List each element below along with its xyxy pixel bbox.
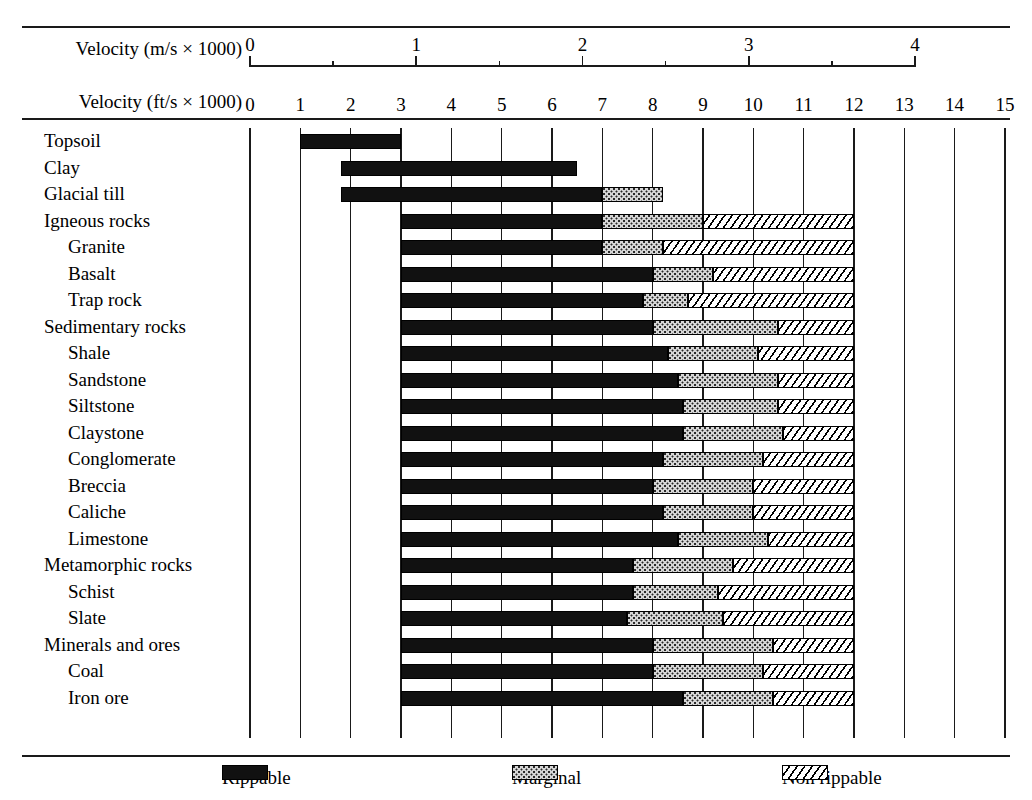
bar-row: Basalt [0,261,1032,288]
velocity-bar [401,532,854,547]
velocity-bar [401,585,854,600]
segment-nonrippable [773,638,854,653]
imperial-tick-label-1: 1 [296,95,306,114]
bar-row: Slate [0,605,1032,632]
segment-marginal [653,479,754,494]
row-label-topsoil: Topsoil [0,128,272,155]
metric-tick-label-4: 4 [910,35,920,54]
imperial-tick-label-4: 4 [447,95,457,114]
row-label-metamorphic-rocks: Metamorphic rocks [0,552,272,579]
metric-tick-label-3: 3 [744,35,754,54]
segment-nonrippable [783,426,853,441]
velocity-bar [401,558,854,573]
segment-rippable [401,479,653,494]
imperial-tick-label-2: 2 [346,95,356,114]
bar-row: Limestone [0,526,1032,553]
metric-axis-caption: Velocity (m/s × 1000) [30,38,242,60]
bar-row: Igneous rocks [0,208,1032,235]
bar-row: Granite [0,234,1032,261]
bar-row: Siltstone [0,393,1032,420]
segment-marginal [678,532,769,547]
bar-row: Shale [0,340,1032,367]
velocity-bar [401,479,854,494]
segment-rippable [401,320,653,335]
row-label-trap-rock: Trap rock [0,287,296,314]
velocity-bar [401,505,854,520]
velocity-bar [300,134,401,149]
segment-marginal [643,293,688,308]
segment-marginal [602,187,662,202]
legend-swatch-rippable [222,765,268,780]
metric-tick-4 [914,56,916,67]
row-label-iron-ore: Iron ore [0,685,296,712]
bar-row: Glacial till [0,181,1032,208]
segment-nonrippable [663,240,854,255]
bar-row: Schist [0,579,1032,606]
segment-rippable [300,134,401,149]
header-rule [22,118,1010,120]
row-label-clay: Clay [0,155,272,182]
metric-minor-tick [499,61,501,67]
legend: Rippable Marginal Non rippable [22,765,1010,795]
segment-marginal [683,426,784,441]
bar-row: Sedimentary rocks [0,314,1032,341]
segment-marginal [627,611,723,626]
velocity-bar [401,373,854,388]
imperial-tick-label-3: 3 [396,95,406,114]
velocity-bar [401,320,854,335]
top-rule [22,26,1010,28]
row-label-conglomerate: Conglomerate [0,446,296,473]
segment-nonrippable [763,452,854,467]
velocity-bar [401,399,854,414]
segment-nonrippable [723,611,854,626]
row-label-caliche: Caliche [0,499,296,526]
metric-tick-1 [415,56,417,67]
metric-minor-tick [332,61,334,67]
bar-row: Minerals and ores [0,632,1032,659]
segment-rippable [401,346,668,361]
segment-marginal [653,267,713,282]
segment-nonrippable [713,267,854,282]
imperial-tick-label-7: 7 [598,95,608,114]
segment-rippable [401,267,653,282]
bar-row: Clay [0,155,1032,182]
velocity-bar [401,452,854,467]
segment-nonrippable [768,532,854,547]
bottom-rule [22,755,1010,757]
velocity-bar [401,346,854,361]
bar-row: Coal [0,658,1032,685]
bar-row: Conglomerate [0,446,1032,473]
segment-marginal [663,452,764,467]
segment-rippable [401,611,627,626]
segment-rippable [401,664,653,679]
metric-tick-label-0: 0 [245,35,255,54]
imperial-tick-label-9: 9 [698,95,708,114]
segment-nonrippable [703,214,854,229]
velocity-bar [401,611,854,626]
segment-marginal [633,585,719,600]
row-label-basalt: Basalt [0,261,296,288]
row-label-granite: Granite [0,234,296,261]
velocity-bar [341,187,663,202]
segment-nonrippable [778,373,853,388]
segment-rippable [401,532,678,547]
segment-nonrippable [688,293,854,308]
imperial-tick-label-14: 14 [945,95,964,114]
legend-item-nonrippable: Non rippable [782,765,882,791]
row-label-siltstone: Siltstone [0,393,296,420]
segment-rippable [401,505,663,520]
metric-tick-3 [748,56,750,67]
bar-row: Claystone [0,420,1032,447]
row-label-breccia: Breccia [0,473,296,500]
imperial-tick-label-5: 5 [497,95,507,114]
metric-axis: 01234 [250,65,915,67]
velocity-bar [401,691,854,706]
row-label-slate: Slate [0,605,296,632]
segment-marginal [653,320,779,335]
segment-nonrippable [753,479,854,494]
velocity-bar [401,214,854,229]
segment-nonrippable [778,320,853,335]
row-label-shale: Shale [0,340,296,367]
metric-minor-tick [831,61,833,67]
velocity-bar [401,267,854,282]
